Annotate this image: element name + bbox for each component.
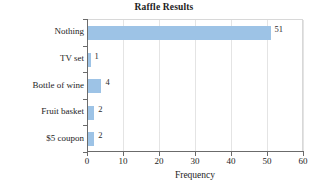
bar-row: 51: [87, 20, 302, 47]
chart-title: Raffle Results: [0, 2, 328, 12]
x-axis-tick-label: 60: [299, 156, 308, 166]
x-axis-tick-label: 0: [85, 156, 90, 166]
x-axis-tick-label: 50: [263, 156, 272, 166]
category-label: Fruit basket: [0, 106, 84, 116]
plot-area: 511422: [87, 19, 303, 152]
x-axis-tick-label: 20: [155, 156, 164, 166]
raffle-results-chart: Raffle Results 511422 NothingTV setBottl…: [0, 0, 328, 190]
gridline: [303, 20, 304, 152]
bar-value-label: 1: [95, 51, 99, 61]
category-label: $5 coupon: [0, 133, 84, 143]
category-label: TV set: [0, 53, 84, 63]
x-axis-title: Frequency: [87, 170, 303, 180]
x-axis-tick-label: 30: [191, 156, 200, 166]
bar-row: 1: [87, 47, 302, 74]
bar-row: 2: [87, 126, 302, 153]
bar: [87, 26, 271, 40]
x-axis-tick-label: 40: [227, 156, 236, 166]
y-axis-labels: NothingTV setBottle of wineFruit basket$…: [0, 19, 84, 152]
bar-value-label: 2: [98, 130, 102, 140]
x-axis-tick-label: 10: [119, 156, 128, 166]
bar-row: 4: [87, 73, 302, 100]
bar-value-label: 51: [275, 24, 284, 34]
bar-value-label: 2: [98, 104, 102, 114]
bar-row: 2: [87, 100, 302, 127]
category-label: Bottle of wine: [0, 80, 84, 90]
bar-value-label: 4: [105, 77, 109, 87]
x-axis-tick-labels: 0102030405060: [87, 156, 307, 170]
category-label: Nothing: [0, 26, 84, 36]
